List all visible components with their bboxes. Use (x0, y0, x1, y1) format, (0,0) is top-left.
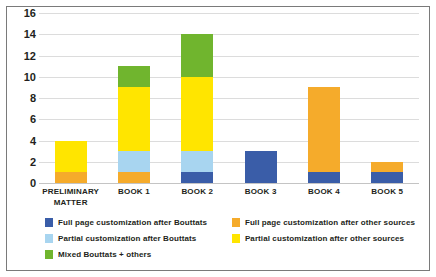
legend-entry[interactable]: Partial customization after Bouttats (45, 234, 226, 243)
legend-swatch-icon (232, 234, 240, 243)
legend-swatch-icon (45, 218, 53, 227)
chart-figure: 1614121086420 PRELIMINARYMATTERBOOK 1BOO… (0, 0, 436, 277)
legend-entry[interactable]: Mixed Bouttats + others (45, 250, 226, 259)
bar-stack[interactable] (181, 34, 213, 183)
axis-baseline (39, 183, 419, 184)
bar-segment[interactable] (308, 87, 340, 172)
legend-swatch-icon (45, 250, 53, 259)
bar-segment[interactable] (181, 34, 213, 77)
bar-group[interactable] (229, 13, 292, 183)
x-tick-label: BOOK 4 (292, 186, 355, 208)
bar-group[interactable] (39, 13, 102, 183)
x-tick-line: PRELIMINARY (39, 186, 102, 197)
x-tick-label: BOOK 1 (102, 186, 165, 208)
x-tick-line: BOOK 3 (229, 186, 292, 197)
legend-label: Mixed Bouttats + others (58, 250, 151, 259)
bar-segment[interactable] (308, 172, 340, 183)
bar-segment[interactable] (118, 151, 150, 172)
legend-entry[interactable]: Full page customization after other sour… (232, 218, 415, 227)
bar-segment[interactable] (371, 162, 403, 173)
legend-label: Full page customization after other sour… (245, 218, 415, 227)
bar-segment[interactable] (118, 66, 150, 87)
bar-stack[interactable] (55, 141, 87, 184)
plot-canvas (39, 13, 419, 183)
bar-group[interactable] (356, 13, 419, 183)
y-tick-label: 8 (30, 92, 36, 104)
bar-segment[interactable] (55, 141, 87, 173)
bar-stack[interactable] (371, 162, 403, 183)
legend-label: Partial customization after other source… (245, 234, 404, 243)
y-tick-label: 12 (24, 50, 36, 62)
y-tick-label: 16 (24, 7, 36, 19)
chart-frame: 1614121086420 PRELIMINARYMATTERBOOK 1BOO… (6, 6, 430, 271)
legend-swatch-icon (45, 234, 53, 243)
bar-segment[interactable] (118, 87, 150, 151)
bars-layer (39, 13, 419, 183)
x-tick-line: MATTER (39, 197, 102, 208)
y-tick-label: 4 (30, 135, 36, 147)
x-tick-line: BOOK 4 (292, 186, 355, 197)
bar-segment[interactable] (245, 151, 277, 183)
x-tick-line: BOOK 1 (102, 186, 165, 197)
bar-segment[interactable] (181, 151, 213, 172)
x-tick-label: BOOK 2 (166, 186, 229, 208)
y-tick-label: 14 (24, 28, 36, 40)
x-tick-line: BOOK 5 (356, 186, 419, 197)
plot-area: 1614121086420 (13, 13, 419, 183)
bar-group[interactable] (292, 13, 355, 183)
x-tick-label: PRELIMINARYMATTER (39, 186, 102, 208)
legend-entry[interactable]: Partial customization after other source… (232, 234, 415, 243)
bar-group[interactable] (166, 13, 229, 183)
bar-segment[interactable] (181, 77, 213, 151)
legend-label: Partial customization after Bouttats (58, 234, 196, 243)
x-tick-line: BOOK 2 (166, 186, 229, 197)
bar-segment[interactable] (371, 172, 403, 183)
bar-stack[interactable] (245, 151, 277, 183)
y-tick-label: 2 (30, 156, 36, 168)
bar-segment[interactable] (55, 172, 87, 183)
y-tick-label: 6 (30, 113, 36, 125)
y-tick-label: 0 (30, 177, 36, 189)
y-axis: 1614121086420 (13, 13, 39, 183)
legend-swatch-icon (232, 218, 240, 227)
bar-stack[interactable] (118, 66, 150, 183)
legend-label: Full page customization after Bouttats (58, 218, 207, 227)
x-axis: PRELIMINARYMATTERBOOK 1BOOK 2BOOK 3BOOK … (39, 186, 419, 208)
bar-segment[interactable] (181, 172, 213, 183)
x-tick-label: BOOK 5 (356, 186, 419, 208)
chart-legend: Full page customization after BouttatsFu… (7, 218, 429, 259)
x-tick-label: BOOK 3 (229, 186, 292, 208)
bar-group[interactable] (102, 13, 165, 183)
legend-entry[interactable]: Full page customization after Bouttats (45, 218, 226, 227)
bar-stack[interactable] (308, 87, 340, 183)
bar-segment[interactable] (118, 172, 150, 183)
y-tick-label: 10 (24, 71, 36, 83)
